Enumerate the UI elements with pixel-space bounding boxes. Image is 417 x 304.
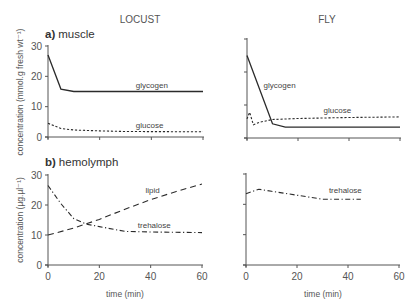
series-glycogen — [247, 56, 400, 128]
y-tick-label: 0 — [36, 260, 42, 271]
y-tick-label: 20 — [31, 71, 43, 82]
figure: LOCUST FLY a)muscle b)hemolymph concentr… — [0, 0, 417, 304]
panel-b-title: b)hemolymph — [45, 156, 118, 168]
series-label-fly-a-glycogen: glycogen — [264, 81, 296, 90]
x-tick-label: 0 — [243, 271, 249, 282]
series-label-locust-a-glycogen: glycogen — [136, 81, 168, 90]
series-label-fly-a-glucose: glucose — [324, 106, 352, 115]
y-tick-label: 10 — [31, 230, 43, 241]
series-label-locust-b-lipid: lipid — [146, 186, 160, 195]
x-tick-label: 60 — [196, 271, 208, 282]
series-label-fly-b-trehalose: trehalose — [329, 186, 362, 195]
panel-a-name: muscle — [58, 28, 94, 40]
series-glucose — [48, 123, 203, 132]
panel-fly-b: 0204060 — [243, 173, 405, 282]
panel-b-letter: b) — [45, 156, 56, 168]
series-lipid — [48, 184, 202, 235]
panel-b-ylabel: concentration (µg.µl⁻¹) — [15, 177, 25, 263]
locust-xlabel: time (min) — [106, 289, 144, 299]
y-tick-label: 10 — [31, 101, 43, 112]
series-glycogen — [48, 55, 203, 91]
y-tick-label: 30 — [31, 41, 43, 52]
x-tick-label: 0 — [45, 271, 51, 282]
column-title-locust: LOCUST — [120, 14, 161, 25]
y-tick-label: 30 — [31, 170, 43, 181]
x-tick-label: 40 — [342, 271, 354, 282]
x-tick-label: 60 — [393, 271, 405, 282]
x-tick-label: 40 — [145, 271, 157, 282]
panel-locust-b: 01020300204060 — [31, 170, 208, 283]
y-tick-label: 20 — [31, 200, 43, 211]
panel-locust-a: 0102030 — [31, 41, 204, 143]
x-tick-label: 20 — [94, 271, 106, 282]
panel-a-title: a)muscle — [45, 28, 95, 40]
column-title-fly: FLY — [318, 14, 336, 25]
y-tick-label: 0 — [36, 132, 42, 143]
panel-a-letter: a) — [45, 28, 55, 40]
x-tick-label: 20 — [291, 271, 303, 282]
series-label-locust-a-glucose: glucose — [136, 121, 164, 130]
panel-a-ylabel: concentration (mmol.g fresh wt⁻¹) — [15, 28, 25, 155]
series-label-locust-b-trehalose: trehalose — [138, 221, 171, 230]
panel-b-name: hemolymph — [59, 156, 118, 168]
chart-canvas: LOCUST FLY a)muscle b)hemolymph concentr… — [0, 0, 417, 304]
fly-xlabel: time (min) — [304, 289, 342, 299]
